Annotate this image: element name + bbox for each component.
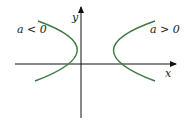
- x-axis-label: x: [165, 67, 172, 80]
- parabola-a-positive: [114, 21, 156, 81]
- label-a-positive: a > 0: [150, 23, 180, 36]
- label-a-negative: a < 0: [17, 23, 47, 36]
- y-axis-label: y: [71, 11, 79, 24]
- parabola-diagram: y x a < 0 a > 0: [0, 0, 189, 129]
